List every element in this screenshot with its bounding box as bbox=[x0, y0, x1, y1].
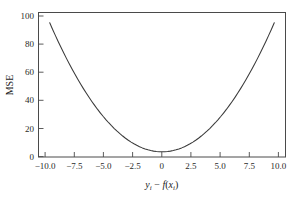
mse-parabola-chart: 0 20 40 60 80 100 −10.0 −7.5 −5.0 −2.5 0… bbox=[0, 0, 294, 201]
x-axis-title-close: ) bbox=[175, 179, 178, 191]
x-tick-label-neg10: −10.0 bbox=[35, 161, 56, 171]
y-tick-label-40: 40 bbox=[25, 95, 35, 105]
y-tick-label-20: 20 bbox=[25, 124, 35, 134]
figure-container: 0 20 40 60 80 100 −10.0 −7.5 −5.0 −2.5 0… bbox=[0, 0, 294, 201]
chart-background bbox=[0, 0, 294, 201]
y-tick-label-60: 60 bbox=[25, 67, 35, 77]
x-tick-label-0: 0 bbox=[160, 161, 165, 171]
x-tick-labels: −10.0 −7.5 −5.0 −2.5 0 2.5 5.0 7.5 10.0 bbox=[35, 161, 287, 171]
y-tick-label-100: 100 bbox=[21, 11, 35, 21]
x-tick-label-neg5: −5.0 bbox=[95, 161, 112, 171]
x-tick-label-10: 10.0 bbox=[271, 161, 287, 171]
y-tick-label-80: 80 bbox=[25, 39, 35, 49]
y-axis-title: MSE bbox=[4, 75, 15, 96]
x-tick-label-7p5: 7.5 bbox=[244, 161, 256, 171]
x-tick-label-neg7p5: −7.5 bbox=[66, 161, 83, 171]
x-tick-label-2p5: 2.5 bbox=[185, 161, 197, 171]
x-tick-label-5: 5.0 bbox=[214, 161, 226, 171]
x-tick-label-neg2p5: −2.5 bbox=[124, 161, 141, 171]
